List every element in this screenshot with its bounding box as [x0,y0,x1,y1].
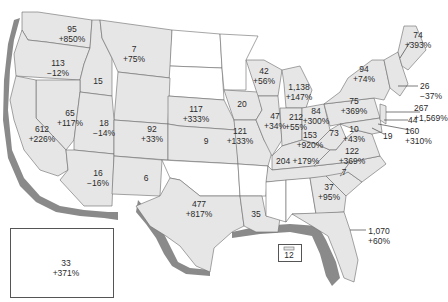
label-NJ: 267+1,569% [414,103,448,123]
label-NC: 122+369% [339,146,366,166]
label-IA: 20 [237,99,246,109]
label-WI: 42+56% [253,66,275,86]
label-NE: 117+333% [183,104,210,124]
state-AR [238,164,268,196]
label-UT: 18−14% [93,118,115,138]
state-NJ [380,104,386,124]
label-KY: 153+920% [297,130,324,150]
label-OH: 84+300% [303,106,330,126]
state-ND [170,30,222,68]
label-WV: 73 [329,128,338,138]
label-PR: 12 [284,250,293,260]
label-NY: 94+74% [353,64,375,84]
label-ME: 74+393% [405,30,432,50]
label-ID: 15 [93,76,102,86]
state-WY [114,72,170,124]
label-IL: 47+34% [264,111,286,131]
label-FL: 1,070+60% [368,226,390,246]
label-VA: 10+43% [343,124,365,144]
label-MI: 1,138+147% [286,82,313,102]
state-MS [266,180,286,222]
label-PA: 75+369% [341,96,368,116]
state-SD [168,66,224,100]
label-CO: 92+33% [141,124,163,144]
label-TX: 477+817% [186,199,213,219]
label-NM: 6 [144,173,149,183]
label-AZ: 16−16% [87,168,109,188]
label-KS: 9 [204,136,209,146]
label-WA: 95+850% [59,24,86,44]
state-NM [112,156,162,196]
label-OR: 113−12% [47,58,69,78]
label-MT: 7+75% [123,44,145,64]
label-SC: 7 [342,167,347,177]
label-DC: 19 [383,131,392,141]
label-HI: 33+371% [53,258,80,278]
label-NV: 65+117% [57,108,83,128]
label-CA: 612+226% [29,124,56,144]
label-MD: 160+310% [405,126,432,146]
label-GA: 37+95% [318,182,340,202]
label-TN: 204 +179% [276,156,319,166]
label-DE: 44 [408,115,417,125]
label-LA: 35 [251,209,260,219]
label-MO: 121+133% [227,126,254,146]
label-MA: 26−37% [420,81,442,101]
